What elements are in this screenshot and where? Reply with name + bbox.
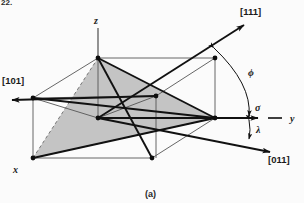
axis-z: z: [93, 15, 98, 58]
direction-111-label: [111]: [240, 6, 261, 17]
figure-caption: (a): [145, 189, 156, 199]
axis-x-label: x: [12, 164, 18, 175]
cropped-figure-number-text: 22.: [1, 0, 12, 7]
vertex-front-inner: [96, 116, 101, 121]
vertex-top-back: [96, 56, 101, 61]
vertex-left-back: [31, 96, 36, 101]
vertex-node-junction: [213, 116, 218, 121]
vertex-origin-x: [31, 156, 36, 161]
direction-011-label: [011]: [268, 154, 290, 165]
axis-x: x: [12, 164, 18, 175]
phi-angle-label: ϕ: [248, 67, 254, 78]
lambda-angle-label: λ: [255, 124, 261, 135]
vertex-top-right-back: [213, 56, 218, 61]
vertex-bottom-right-front: [150, 156, 155, 161]
figure-container: z [111] [101] [011] y σ x: [0, 0, 304, 203]
phi-angle-arc: ϕ: [214, 48, 254, 116]
axis-y-label: y: [289, 113, 295, 124]
axis-z-label: z: [93, 15, 98, 26]
vertex-center-mid: [154, 94, 159, 99]
lambda-angle-arc: λ: [249, 120, 261, 139]
crystal-slip-diagram: z [111] [101] [011] y σ x: [0, 0, 304, 203]
direction-101-label: [101]: [2, 75, 24, 86]
sigma-stress-label: σ: [255, 102, 261, 113]
cropped-figure-number: 22.: [1, 0, 12, 7]
